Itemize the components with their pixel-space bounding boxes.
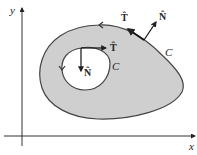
outer-normal-vector [144, 22, 156, 40]
inner-normal-label: N̂ [84, 66, 92, 78]
x-axis-label: x [188, 140, 194, 152]
outer-normal-label: N̂ [159, 10, 167, 22]
diagram-canvas: y x T̂ N̂ C T̂ N̂ C [0, 0, 197, 155]
outer-curve-label: C [165, 46, 173, 58]
shaded-region [40, 25, 184, 119]
inner-curve-label: C [112, 60, 120, 72]
outer-tangent-label: T̂ [121, 11, 128, 23]
y-axis-label: y [9, 4, 15, 16]
inner-tangent-label: T̂ [110, 41, 117, 53]
